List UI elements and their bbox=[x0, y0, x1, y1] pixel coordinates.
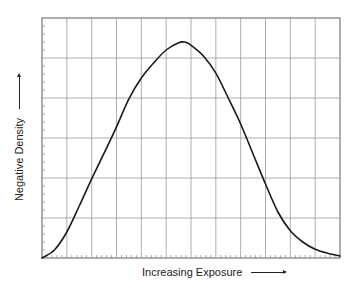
y-axis-arrow-icon bbox=[19, 75, 20, 109]
chart-plot bbox=[0, 0, 360, 296]
grid-lines bbox=[42, 18, 340, 258]
x-axis-arrow-icon bbox=[251, 272, 285, 273]
x-axis-label-text: Increasing Exposure bbox=[142, 266, 242, 278]
y-axis-label: Negative Density bbox=[13, 75, 25, 201]
minor-ticks bbox=[42, 26, 335, 258]
y-axis-label-text: Negative Density bbox=[13, 118, 25, 201]
y-axis-label-container: Negative Density bbox=[0, 0, 30, 296]
x-axis-label: Increasing Exposure bbox=[142, 266, 285, 278]
